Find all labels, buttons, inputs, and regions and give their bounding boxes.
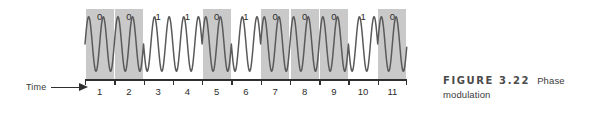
axis-tick-label: 8 xyxy=(290,86,319,98)
figure-title: Phase xyxy=(537,75,564,86)
time-axis-label: Time xyxy=(26,82,46,92)
axis-tick xyxy=(85,79,86,85)
figure-caption: FIGURE 3.22Phase modulation xyxy=(443,72,593,101)
axis-tick xyxy=(261,79,262,85)
axis-tick-label: 7 xyxy=(261,86,290,98)
axis-tick xyxy=(319,79,320,85)
figure-title-continued: modulation xyxy=(443,88,593,102)
axis-tick-label: 5 xyxy=(202,86,231,98)
axis-tick-label: 11 xyxy=(378,86,407,98)
time-axis-label-group: Time xyxy=(26,80,89,94)
axis-tick xyxy=(378,79,379,85)
axis-tick xyxy=(290,79,291,85)
axis-tick-label: 6 xyxy=(231,86,260,98)
axis-tick-label: 10 xyxy=(348,86,377,98)
axis-line xyxy=(85,79,407,81)
time-axis: 1234567891011 xyxy=(85,79,407,103)
axis-tick xyxy=(348,79,349,85)
axis-tick xyxy=(173,79,174,85)
axis-tick xyxy=(114,79,115,85)
figure-number: FIGURE 3.22 xyxy=(443,75,530,86)
plot-area: 00110100010 xyxy=(85,9,407,79)
figure-phase-modulation: Time 00110100010 1234567891011 FIGURE 3.… xyxy=(0,0,602,114)
axis-tick-label: 3 xyxy=(144,86,173,98)
axis-tick xyxy=(406,79,407,85)
axis-tick-label: 9 xyxy=(319,86,348,98)
axis-tick-label: 1 xyxy=(85,86,114,98)
axis-tick-label: 4 xyxy=(173,86,202,98)
axis-tick xyxy=(202,79,203,85)
carrier-waveform xyxy=(85,9,407,79)
axis-tick-label: 2 xyxy=(114,86,143,98)
axis-tick xyxy=(231,79,232,85)
right-arrow-icon xyxy=(51,83,89,92)
axis-tick xyxy=(144,79,145,85)
